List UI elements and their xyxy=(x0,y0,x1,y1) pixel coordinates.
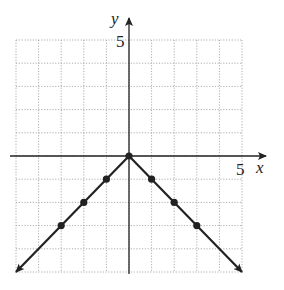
right-branch xyxy=(129,156,242,272)
x-tick-label: 5 xyxy=(236,160,245,179)
data-point xyxy=(80,199,87,206)
y-axis-label: y xyxy=(109,9,119,28)
data-point xyxy=(171,199,178,206)
data-point xyxy=(125,152,132,159)
x-axis-label: x xyxy=(255,158,264,177)
data-point xyxy=(103,176,110,183)
y-tick-label: 5 xyxy=(116,32,125,51)
data-point xyxy=(58,222,65,229)
graph: y 5 5 x xyxy=(0,0,284,290)
data-point xyxy=(148,176,155,183)
left-branch xyxy=(16,156,129,272)
data-point xyxy=(193,222,200,229)
